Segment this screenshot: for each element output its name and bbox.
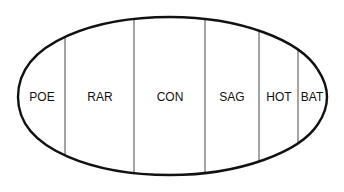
segmented-oval-diagram: POE RAR CON SAG HOT BAT [0,0,344,192]
segment-label-con: CON [157,90,184,104]
segment-label-sag: SAG [219,90,244,104]
segment-label-rar: RAR [87,90,113,104]
segment-label-poe: POE [29,90,54,104]
segment-label-bat: BAT [301,90,324,104]
segment-label-hot: HOT [266,90,292,104]
